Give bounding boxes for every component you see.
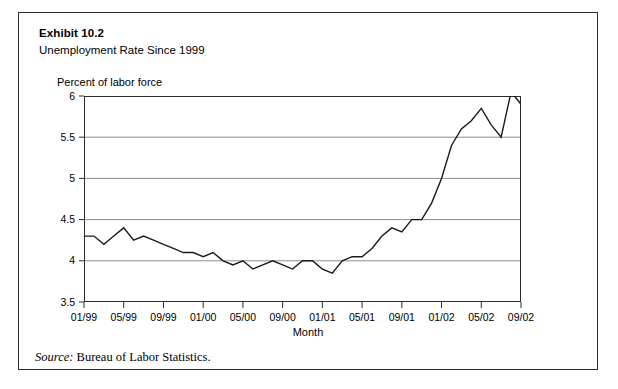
- source-note: Source: Bureau of Labor Statistics.: [35, 350, 211, 365]
- exhibit-frame: Exhibit 10.2 Unemployment Rate Since 199…: [18, 12, 598, 370]
- x-axis-title: Month: [19, 326, 597, 338]
- plot-border: [85, 97, 521, 302]
- y-tick-label: 4: [69, 254, 75, 266]
- y-tick-label: 6: [69, 90, 75, 102]
- chart-plot-area: 3.544.555.56 01/9905/9909/9901/0005/0009…: [84, 96, 521, 302]
- x-tick-label: 05/02: [468, 311, 494, 323]
- x-tick-label: 01/00: [190, 311, 216, 323]
- x-tick-label: 01/02: [428, 311, 454, 323]
- y-tick-label: 4.5: [60, 213, 75, 225]
- line-chart-svg: [84, 96, 521, 302]
- x-tick-label: 05/01: [349, 311, 375, 323]
- x-tick-label: 01/01: [309, 311, 335, 323]
- y-tick-label: 3.5: [60, 296, 75, 308]
- exhibit-number: Exhibit 10.2: [39, 27, 104, 39]
- x-tick-label: 05/99: [111, 311, 137, 323]
- x-tick-label: 09/00: [269, 311, 295, 323]
- x-axis-labels: 01/9905/9909/9901/0005/0009/0001/0105/01…: [71, 302, 534, 323]
- x-tick-label: 05/00: [230, 311, 256, 323]
- y-tick-label: 5: [69, 172, 75, 184]
- y-tick-label: 5.5: [60, 131, 75, 143]
- grid-lines: [84, 96, 521, 302]
- x-tick-label: 09/02: [508, 311, 534, 323]
- y-axis-labels: 3.544.555.56: [60, 90, 84, 308]
- x-tick-label: 09/01: [389, 311, 415, 323]
- exhibit-title: Unemployment Rate Since 1999: [39, 44, 205, 56]
- source-label: Source:: [35, 350, 73, 364]
- y-axis-title: Percent of labor force: [57, 76, 162, 88]
- x-tick-label: 09/99: [150, 311, 176, 323]
- source-text: Bureau of Labor Statistics.: [73, 350, 210, 364]
- x-tick-label: 01/99: [71, 311, 97, 323]
- unemployment-rate-line: [84, 96, 521, 273]
